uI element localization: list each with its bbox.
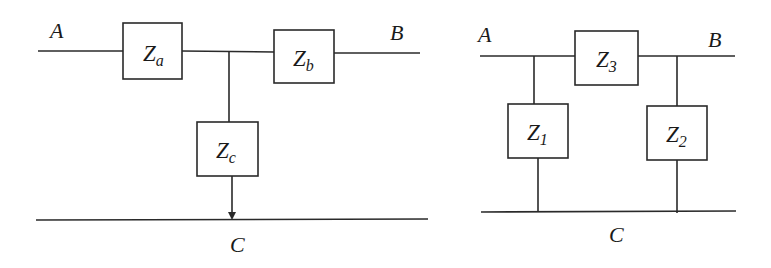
impedance-z2: Z2 bbox=[647, 106, 707, 160]
circuit-diagrams: Za Zb Zc A B C Z3 Z1 bbox=[0, 0, 771, 268]
node-c-label: C bbox=[230, 232, 245, 257]
bus-c bbox=[36, 219, 428, 220]
node-a-label: A bbox=[476, 22, 492, 47]
pi-network: Z3 Z1 Z2 A B C bbox=[476, 22, 736, 247]
node-c-label: C bbox=[609, 222, 624, 247]
impedance-z1: Z1 bbox=[508, 104, 568, 158]
node-a-label: A bbox=[48, 18, 64, 43]
impedance-zb: Zb bbox=[274, 30, 334, 83]
bus-c bbox=[481, 211, 736, 212]
node-b-label: B bbox=[390, 20, 403, 45]
node-b-label: B bbox=[708, 27, 721, 52]
t-network: Za Zb Zc A B C bbox=[36, 18, 428, 257]
impedance-z3: Z3 bbox=[575, 31, 638, 85]
wire-za-to-zb bbox=[182, 51, 274, 52]
impedance-zc: Zc bbox=[197, 122, 258, 176]
impedance-za: Za bbox=[123, 23, 182, 79]
